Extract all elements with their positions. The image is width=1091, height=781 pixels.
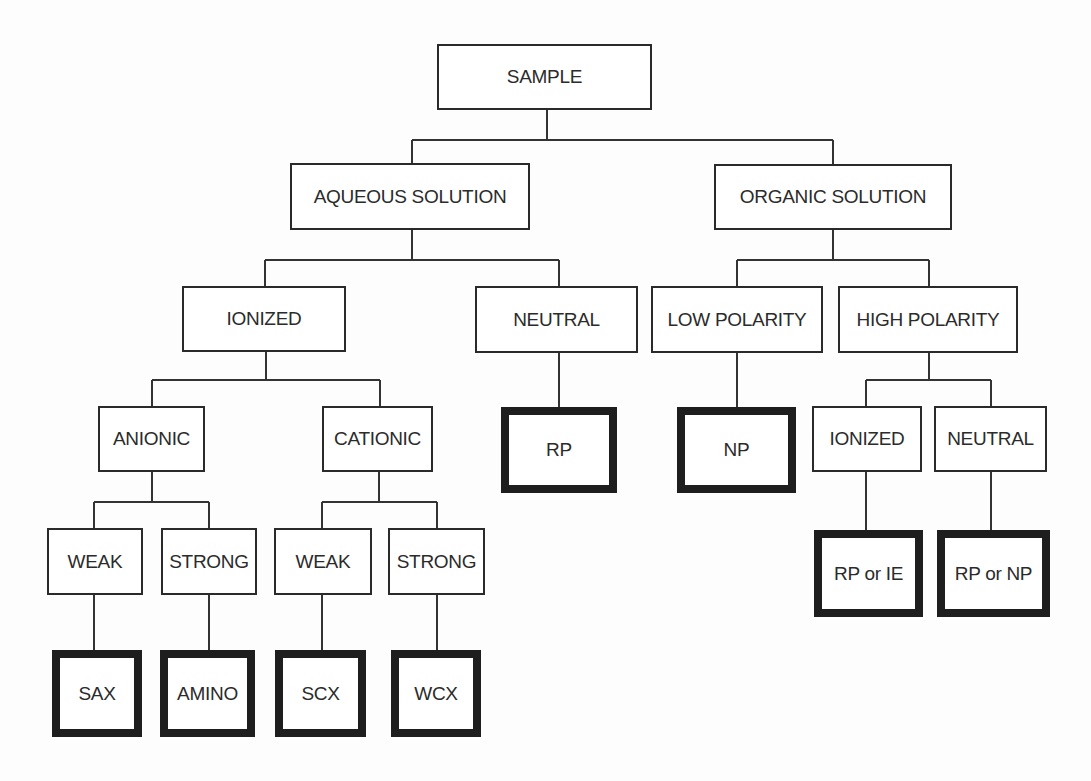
node-label: AQUEOUS SOLUTION (314, 186, 507, 208)
node-label: WCX (414, 683, 457, 705)
node-np: NP (677, 407, 796, 493)
node-label: SCX (301, 683, 339, 705)
node-sample: SAMPLE (437, 44, 652, 110)
node-scx: SCX (275, 650, 366, 737)
node-label: CATIONIC (334, 428, 421, 450)
node-strong-anionic: STRONG (161, 528, 257, 595)
node-label: STRONG (169, 551, 248, 573)
node-anionic: ANIONIC (98, 406, 205, 472)
node-label: ORGANIC SOLUTION (740, 186, 926, 208)
node-label: IONIZED (227, 308, 302, 330)
node-label: IONIZED (830, 428, 905, 450)
node-rp: RP (501, 407, 617, 493)
node-neutral-organic: NEUTRAL (934, 406, 1047, 472)
node-rp-or-ie: RP or IE (814, 530, 923, 617)
node-sax: SAX (52, 650, 142, 737)
node-label: NEUTRAL (513, 309, 600, 331)
node-label: SAMPLE (507, 66, 582, 88)
node-cationic: CATIONIC (322, 406, 433, 472)
node-label: WEAK (68, 551, 123, 573)
node-label: RP or NP (955, 563, 1033, 585)
diagram-canvas: SAMPLEAQUEOUS SOLUTIONORGANIC SOLUTIONIO… (0, 0, 1091, 781)
node-amino: AMINO (160, 650, 255, 737)
node-label: ANIONIC (113, 428, 190, 450)
node-rp-or-np: RP or NP (937, 530, 1050, 617)
node-aqueous: AQUEOUS SOLUTION (290, 163, 530, 230)
node-ionized-organic: IONIZED (812, 406, 922, 472)
node-label: SAX (78, 683, 115, 705)
node-label: RP or IE (834, 563, 903, 585)
node-organic: ORGANIC SOLUTION (714, 164, 952, 230)
node-strong-cationic: STRONG (388, 528, 485, 595)
node-label: STRONG (397, 551, 476, 573)
node-label: AMINO (177, 683, 238, 705)
node-neutral: NEUTRAL (475, 286, 638, 353)
node-wcx: WCX (391, 650, 481, 737)
node-high-polarity: HIGH POLARITY (838, 286, 1018, 353)
node-label: NP (724, 439, 750, 461)
node-low-polarity: LOW POLARITY (651, 286, 823, 353)
node-label: HIGH POLARITY (857, 309, 1000, 331)
node-label: WEAK (296, 551, 351, 573)
node-weak-cationic: WEAK (274, 528, 372, 595)
node-label: LOW POLARITY (668, 309, 807, 331)
node-label: RP (546, 439, 572, 461)
node-label: NEUTRAL (947, 428, 1034, 450)
node-ionized: IONIZED (182, 286, 346, 352)
node-weak-anionic: WEAK (47, 528, 143, 595)
